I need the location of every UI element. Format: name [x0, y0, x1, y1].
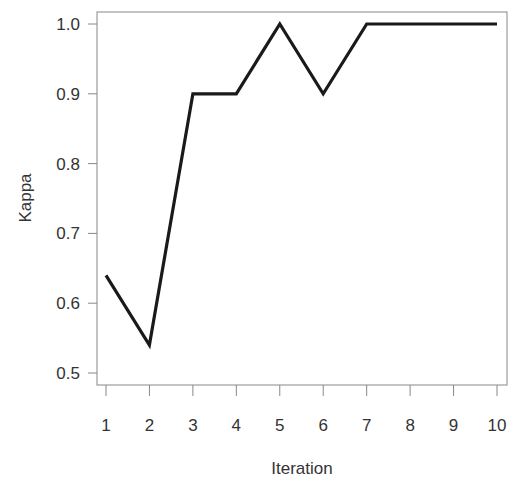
x-tick-label: 6: [318, 416, 327, 435]
line-chart: 0.50.60.70.80.91.0 12345678910 Iteration…: [0, 0, 517, 480]
x-tick-label: 1: [101, 416, 110, 435]
x-tick-label: 3: [188, 416, 197, 435]
x-tick-label: 5: [275, 416, 284, 435]
y-tick-label: 0.9: [56, 85, 80, 104]
x-tick-label: 9: [449, 416, 458, 435]
x-tick-label: 4: [232, 416, 241, 435]
y-tick-label: 0.6: [56, 294, 80, 313]
x-axis: 12345678910: [101, 385, 506, 435]
kappa-series-line: [106, 24, 497, 345]
y-tick-label: 0.8: [56, 155, 80, 174]
y-tick-label: 0.7: [56, 224, 80, 243]
x-tick-label: 10: [488, 416, 507, 435]
y-tick-label: 0.5: [56, 364, 80, 383]
y-tick-label: 1.0: [56, 15, 80, 34]
x-tick-label: 2: [145, 416, 154, 435]
y-axis: 0.50.60.70.80.91.0: [56, 15, 97, 383]
x-tick-label: 7: [362, 416, 371, 435]
plot-area-frame: [97, 12, 507, 385]
x-tick-label: 8: [405, 416, 414, 435]
y-axis-title: Kappa: [16, 173, 35, 223]
x-axis-title: Iteration: [271, 459, 332, 478]
